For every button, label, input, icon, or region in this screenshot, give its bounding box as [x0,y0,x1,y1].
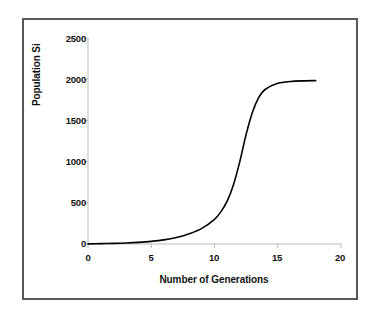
y-tick-label-2000: 2000 [52,74,86,85]
y-tick-label-2500: 2500 [52,33,86,44]
x-tick-label-20: 20 [326,252,354,263]
y-tick-label-1000: 1000 [52,156,86,167]
x-tick-label-0: 0 [74,252,102,263]
y-axis-title: Population Si [31,43,42,106]
y-tick-label-0: 0 [52,238,86,249]
x-axis-title: Number of Generations [88,274,340,285]
figure-canvas: 2500 2000 1500 1000 500 0 0 5 10 15 20 N… [0,0,377,320]
y-tick-label-500: 500 [52,197,86,208]
y-tick-label-1500: 1500 [52,115,86,126]
x-tick-label-10: 10 [200,252,228,263]
x-tick-label-15: 15 [263,252,291,263]
x-tick-label-5: 5 [137,252,165,263]
